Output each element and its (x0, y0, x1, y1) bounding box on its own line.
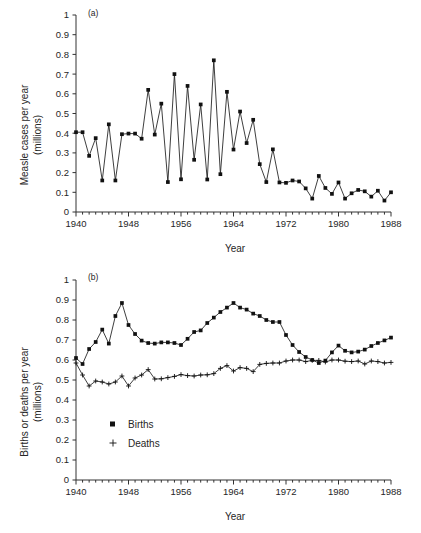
panel-b-axes (76, 280, 391, 480)
data-point-square (251, 118, 255, 122)
data-point-square (317, 174, 321, 178)
y-tick-label: 0.9 (56, 29, 69, 40)
data-point-square (363, 189, 367, 193)
panel-a-measles-chart: Measle cases per year (millions) (a) 00.… (0, 0, 421, 266)
data-point-square (74, 356, 78, 360)
data-point-square (330, 192, 334, 196)
data-point-square (291, 343, 295, 347)
x-tick-label: 1980 (328, 486, 349, 497)
data-point-plus (270, 361, 275, 366)
y-tick-label: 0.1 (56, 187, 69, 198)
data-point-square (133, 332, 137, 336)
panel-a-y-axis-title-line2: (millions) (32, 115, 43, 155)
data-point-square (186, 84, 190, 88)
panel-a-y-tick-labels: 00.10.20.30.40.50.60.70.80.91 (56, 9, 76, 217)
legend-deaths-plus-icon (110, 440, 117, 447)
panel-a-axes (76, 15, 391, 212)
data-point-square (87, 347, 91, 351)
data-point-square (159, 102, 163, 106)
data-point-plus (356, 359, 361, 364)
data-point-plus (238, 365, 243, 370)
y-tick-label: 0.8 (56, 314, 69, 325)
legend-births-label: Births (128, 419, 154, 430)
data-point-square (114, 314, 118, 318)
data-point-square (94, 136, 98, 140)
y-tick-label: 0 (64, 474, 69, 485)
y-tick-label: 0.3 (56, 147, 69, 158)
panel-b-deaths-markers (74, 358, 394, 389)
panel-b-svg: Births or deaths per year (millions) (b)… (0, 262, 421, 533)
y-tick-label: 0.6 (56, 88, 69, 99)
data-point-square (159, 341, 163, 345)
x-tick-label: 1964 (223, 486, 244, 497)
data-point-square (173, 72, 177, 76)
data-point-plus (336, 358, 341, 363)
data-point-plus (165, 375, 170, 380)
panel-a-data-markers (74, 58, 393, 202)
y-tick-label: 0.7 (56, 334, 69, 345)
panel-a-svg: Measle cases per year (millions) (a) 00.… (0, 0, 421, 266)
data-point-plus (106, 382, 111, 387)
data-point-plus (290, 358, 295, 363)
y-tick-label: 0.9 (56, 294, 69, 305)
x-tick-label: 1956 (170, 218, 191, 229)
x-tick-label: 1972 (275, 218, 296, 229)
data-point-square (337, 344, 341, 348)
data-point-square (291, 179, 295, 183)
data-point-square (264, 180, 268, 184)
data-point-plus (205, 372, 210, 377)
data-point-square (297, 180, 301, 184)
data-point-plus (349, 359, 354, 364)
y-tick-label: 0.7 (56, 69, 69, 80)
panel-b-minor-ticks (76, 480, 391, 485)
data-point-square (343, 197, 347, 201)
x-tick-label: 1964 (223, 218, 244, 229)
data-point-square (284, 181, 288, 185)
data-point-square (383, 199, 387, 203)
panel-a-minor-ticks (76, 212, 391, 217)
data-point-square (114, 179, 118, 183)
data-point-square (251, 312, 255, 316)
data-point-plus (297, 358, 302, 363)
y-tick-label: 0.5 (56, 374, 69, 385)
measles-births-deaths-figure: Measle cases per year (millions) (a) 00.… (0, 0, 421, 533)
data-point-square (87, 154, 91, 158)
data-point-square (232, 301, 236, 305)
data-point-square (304, 187, 308, 191)
data-point-square (107, 342, 111, 346)
data-point-square (376, 341, 380, 345)
data-point-square (153, 342, 157, 346)
data-point-plus (362, 362, 367, 367)
data-point-square (127, 132, 131, 136)
data-point-square (219, 172, 223, 176)
data-point-plus (264, 361, 269, 366)
data-point-plus (80, 373, 85, 378)
data-point-square (212, 58, 216, 62)
data-point-square (179, 343, 183, 347)
x-tick-label: 1972 (275, 486, 296, 497)
x-tick-label: 1940 (65, 486, 86, 497)
data-point-plus (284, 359, 289, 364)
data-point-plus (185, 373, 190, 378)
data-point-plus (343, 359, 348, 364)
y-tick-label: 0.4 (56, 128, 69, 139)
panel-a-series-line (76, 60, 391, 200)
x-tick-label: 1956 (170, 486, 191, 497)
data-point-square (140, 137, 144, 141)
panel-b-y-axis-title-line1: Births or deaths per year (19, 347, 30, 457)
data-point-square (199, 329, 203, 333)
x-tick-label: 1988 (380, 218, 401, 229)
legend-deaths-label: Deaths (128, 438, 160, 449)
data-point-square (350, 191, 354, 195)
data-point-square (369, 344, 373, 348)
panel-b-x-axis-title: Year (225, 511, 246, 522)
data-point-square (330, 351, 334, 355)
data-point-square (225, 90, 229, 94)
data-point-plus (159, 376, 164, 381)
panel-a-tag: (a) (88, 8, 99, 18)
x-tick-label: 1980 (328, 218, 349, 229)
data-point-square (389, 190, 393, 194)
data-point-square (258, 162, 262, 166)
data-point-square (225, 306, 229, 310)
data-point-plus (375, 359, 380, 364)
